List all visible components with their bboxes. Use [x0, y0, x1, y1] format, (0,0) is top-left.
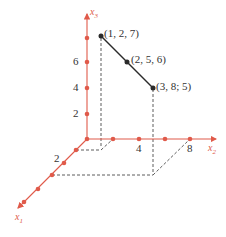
- x3-axis-label: x3: [90, 7, 98, 20]
- x1-tick-2: 2: [54, 153, 60, 164]
- x1-axis-label: x1: [15, 212, 23, 225]
- x3-tick-4: 4: [73, 82, 79, 93]
- point-label-3: (3, 8; 5): [156, 81, 191, 92]
- x2-tick-8: 8: [187, 143, 193, 154]
- x2-tick-4: 4: [136, 143, 142, 154]
- x3-tick-2: 2: [73, 108, 79, 119]
- axes: [18, 14, 216, 208]
- x3-tick-6: 6: [73, 56, 79, 67]
- point-label-1: (1, 2, 7): [104, 28, 139, 39]
- x2-axis-label: x2: [208, 143, 216, 156]
- point-label-2: (2, 5, 6): [131, 54, 166, 65]
